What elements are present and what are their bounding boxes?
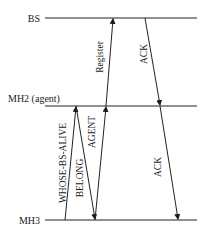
message-label-belong: BELONG (75, 159, 85, 198)
message-label-ack-bs-mh2: ACK (139, 44, 149, 64)
lifeline-label-bs: BS (28, 13, 40, 24)
arrow-register (106, 19, 113, 106)
message-ack-mh2-mh3: ACK (153, 106, 178, 219)
message-label-ack-mh2-mh3: ACK (153, 157, 163, 177)
lifeline-label-mh2: MH2 (agent) (8, 93, 60, 105)
message-ack-bs-mh2: ACK (139, 18, 160, 105)
message-whose-bs-alive: WHOSE-BS-ALIVE (58, 107, 76, 220)
message-label-whose-bs-alive: WHOSE-BS-ALIVE (58, 123, 68, 203)
message-label-register: Register (95, 40, 105, 72)
lifeline-label-mh3: MH3 (19, 215, 40, 226)
message-agent: AGENT (87, 107, 106, 220)
lifeline-mh3: MH3 (19, 215, 197, 226)
lifeline-mh2: MH2 (agent) (8, 93, 197, 106)
sequence-diagram: BS MH2 (agent) MH3 WHOSE-BS-ALIVE BELONG… (0, 0, 209, 234)
message-register: Register (95, 19, 113, 106)
message-label-agent: AGENT (87, 116, 97, 148)
